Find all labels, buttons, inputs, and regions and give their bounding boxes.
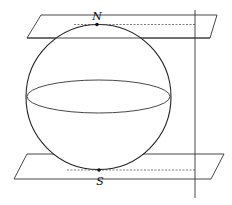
sphere-tangent-planes-diagram: N S (0, 0, 232, 205)
diagram-canvas: N S (0, 0, 232, 205)
south-pole-point (97, 168, 101, 172)
north-pole-point (95, 23, 99, 27)
south-pole-label: S (96, 175, 104, 188)
sphere-outline (26, 25, 171, 170)
north-pole-label: N (91, 10, 102, 23)
